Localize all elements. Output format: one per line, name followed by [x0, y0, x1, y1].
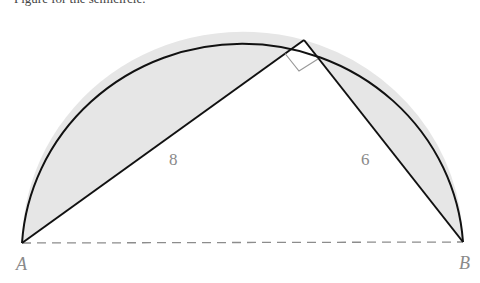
- side-label-bc: 6: [361, 150, 370, 170]
- point-label-b: B: [459, 253, 470, 274]
- diameter-ab: [22, 242, 463, 243]
- caption-text: Figure for the semicircle.: [14, 0, 145, 7]
- point-label-a: A: [16, 254, 27, 275]
- side-label-ac: 8: [169, 150, 178, 170]
- right-angle-marker: [285, 54, 318, 72]
- diagram: Figure for the semicircle. 8 6 A B: [0, 0, 480, 283]
- shaded-segment-ac: [22, 32, 304, 243]
- chord-cb: [304, 40, 463, 242]
- semicircle-figure: [0, 0, 480, 283]
